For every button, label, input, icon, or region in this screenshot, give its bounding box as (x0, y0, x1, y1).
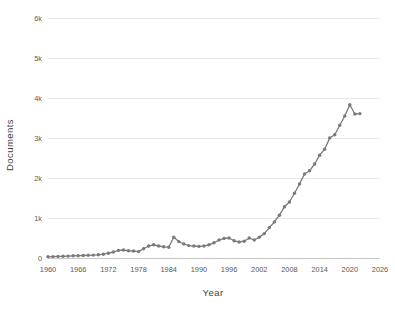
data-point-marker (132, 249, 135, 252)
data-point-marker (278, 214, 281, 217)
data-point-marker (61, 255, 64, 258)
data-point-marker (222, 237, 225, 240)
data-point-marker (202, 244, 205, 247)
data-point-marker (283, 205, 286, 208)
data-point-marker (137, 250, 140, 253)
data-point-marker (197, 245, 200, 248)
data-point-marker (248, 236, 251, 239)
x-axis-tick-label: 2014 (311, 265, 327, 274)
data-point-marker (343, 114, 346, 117)
x-axis-tick-label: 1960 (40, 265, 56, 274)
data-point-marker (333, 133, 336, 136)
data-point-marker (172, 236, 175, 239)
data-point-marker (97, 253, 100, 256)
data-point-marker (242, 240, 245, 243)
y-axis-tick-label: 0 (38, 254, 42, 263)
data-point-marker (51, 255, 54, 258)
data-point-marker (207, 243, 210, 246)
y-axis-tick-label: 5k (34, 54, 42, 63)
data-point-marker (46, 255, 49, 258)
data-point-marker (92, 253, 95, 256)
y-axis-tick-label: 2k (34, 174, 42, 183)
x-axis-tick-labels: 1960196619721978198419901996200220082014… (40, 265, 388, 274)
x-axis-tick-label: 1972 (100, 265, 116, 274)
data-point-marker (177, 240, 180, 243)
data-point-marker (237, 240, 240, 243)
data-point-marker (102, 253, 105, 256)
x-axis-tick-label: 1966 (70, 265, 86, 274)
data-point-marker (117, 249, 120, 252)
x-axis-tick-label: 2026 (372, 265, 388, 274)
line-chart: 01k2k3k4k5k6k 19601966197219781984199019… (0, 0, 395, 309)
data-point-marker (293, 192, 296, 195)
data-point-marker (313, 162, 316, 165)
documents-series-markers (46, 103, 361, 258)
data-point-marker (107, 252, 110, 255)
data-point-marker (323, 148, 326, 151)
y-axis-title: Documents (4, 119, 15, 171)
data-point-marker (258, 236, 261, 239)
data-point-marker (187, 244, 190, 247)
y-axis-tick-label: 3k (34, 134, 42, 143)
data-point-marker (71, 254, 74, 257)
data-point-marker (142, 247, 145, 250)
y-axis-tick-label: 1k (34, 214, 42, 223)
x-axis-tick-label: 2002 (251, 265, 267, 274)
data-point-marker (122, 248, 125, 251)
data-point-marker (263, 232, 266, 235)
data-point-marker (227, 236, 230, 239)
data-point-marker (212, 241, 215, 244)
x-axis-tick-label: 1978 (130, 265, 146, 274)
x-axis-title: Year (203, 287, 224, 298)
chart-figure: 01k2k3k4k5k6k 19601966197219781984199019… (0, 0, 395, 309)
data-point-marker (288, 200, 291, 203)
data-point-marker (338, 124, 341, 127)
data-point-marker (152, 243, 155, 246)
data-point-marker (182, 242, 185, 245)
data-point-marker (192, 244, 195, 247)
data-point-marker (353, 112, 356, 115)
data-point-marker (56, 255, 59, 258)
data-point-marker (298, 182, 301, 185)
data-point-marker (87, 254, 90, 257)
data-point-marker (253, 238, 256, 241)
data-point-marker (318, 154, 321, 157)
x-axis-tick-label: 1990 (191, 265, 207, 274)
data-point-marker (82, 254, 85, 257)
data-point-marker (348, 103, 351, 106)
x-axis-tick-label: 2008 (281, 265, 297, 274)
documents-series-line (48, 105, 360, 257)
data-point-marker (268, 226, 271, 229)
data-point-marker (157, 244, 160, 247)
data-point-marker (76, 254, 79, 257)
x-axis-tick-label: 1996 (221, 265, 237, 274)
data-point-marker (162, 245, 165, 248)
data-point-marker (273, 220, 276, 223)
data-point-marker (147, 244, 150, 247)
x-axis-tick-label: 2020 (342, 265, 358, 274)
data-point-marker (232, 239, 235, 242)
data-point-marker (127, 249, 130, 252)
data-point-marker (358, 112, 361, 115)
data-point-marker (66, 254, 69, 257)
data-point-marker (217, 238, 220, 241)
x-axis-tick-label: 1984 (161, 265, 177, 274)
data-point-marker (308, 169, 311, 172)
y-axis-tick-label: 4k (34, 94, 42, 103)
y-axis-tick-labels: 01k2k3k4k5k6k (34, 14, 42, 263)
y-axis-tick-label: 6k (34, 14, 42, 23)
data-point-marker (328, 136, 331, 139)
data-point-marker (303, 172, 306, 175)
data-point-marker (112, 250, 115, 253)
data-point-marker (167, 246, 170, 249)
